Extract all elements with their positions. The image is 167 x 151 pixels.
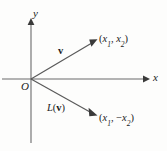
- figure-canvas: [0, 0, 167, 151]
- plv-sub2: 2: [127, 119, 131, 128]
- x-axis-label: x: [153, 72, 158, 83]
- vector-lv-label: L(v): [47, 103, 65, 114]
- plv-sub1: 1: [107, 119, 111, 128]
- origin-label: O: [21, 81, 29, 92]
- vector-v-label: v: [58, 46, 63, 57]
- y-axis-label: y: [33, 8, 38, 19]
- point-label-lv: (x1, −x2): [99, 113, 134, 126]
- vector-v-arrow: [31, 39, 98, 79]
- point-label-v: (x1, x2): [99, 34, 128, 47]
- pv-sub1: 1: [107, 40, 111, 49]
- vector-reflection-figure: y x O v L(v) (x1, x2) (x1, −x2): [0, 0, 167, 151]
- pv-close-paren: ): [125, 33, 129, 44]
- plv-close-paren: ): [131, 112, 135, 123]
- lv-close-paren: ): [62, 102, 66, 113]
- pv-sub2: 2: [121, 40, 125, 49]
